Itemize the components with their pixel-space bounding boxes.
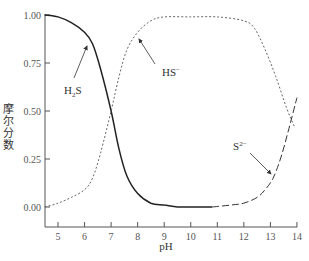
x-tick-label: 6 <box>82 231 87 242</box>
hs-curve <box>45 17 295 207</box>
y-tick-label: 0.25 <box>24 154 42 165</box>
x-tick-label: 13 <box>265 231 275 242</box>
axes <box>45 14 297 227</box>
y-tick-label: 1.00 <box>24 10 42 21</box>
h2s-label: H2S <box>64 84 82 99</box>
x-tick-label: 10 <box>186 231 196 242</box>
y-tick-label: 0.50 <box>24 106 42 117</box>
y-ticks: 0.000.250.500.751.00 <box>24 10 51 213</box>
s2-curve <box>212 98 297 207</box>
h2s-arrow <box>74 46 87 78</box>
x-tick-label: 8 <box>135 231 140 242</box>
hs-label: HS− <box>162 66 180 78</box>
s2-arrow <box>250 153 271 174</box>
s2-label: S2− <box>233 140 247 152</box>
x-tick-label: 11 <box>212 231 222 242</box>
x-tick-label: 14 <box>292 231 302 242</box>
y-axis-label: 摩尔分数 <box>1 104 15 152</box>
hs-arrow <box>139 39 155 64</box>
x-tick-label: 12 <box>239 231 249 242</box>
y-tick-label: 0.75 <box>24 58 42 69</box>
x-ticks: 567891011121314 <box>56 222 302 242</box>
x-tick-label: 5 <box>56 231 61 242</box>
y-tick-label: 0.00 <box>24 202 42 213</box>
h2s-curve <box>45 15 212 207</box>
x-axis-label: pH <box>159 240 173 252</box>
mole-fraction-chart: 0.000.250.500.751.00 567891011121314 H2S… <box>0 0 309 261</box>
x-tick-label: 7 <box>109 231 114 242</box>
